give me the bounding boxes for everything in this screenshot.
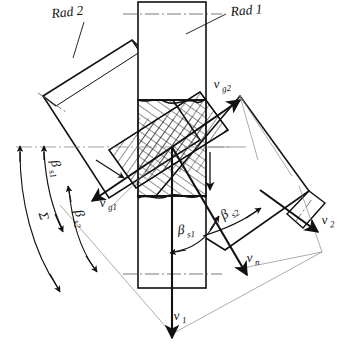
diagram-canvas: Rad 2 Rad 1 v g2 v g1 v n v 1 v 2 xyxy=(0,0,350,352)
label-vg2-sub: g2 xyxy=(222,83,232,94)
label-vg1-sub: g1 xyxy=(108,202,118,213)
label-beta-s1-centre-sub: s1 xyxy=(187,229,196,240)
label-rad1: Rad 1 xyxy=(229,1,263,19)
label-v1-sub: 1 xyxy=(182,315,187,325)
technical-diagram: Rad 2 Rad 1 v g2 v g1 v n v 1 v 2 xyxy=(0,0,350,352)
label-beta-s1-centre-base: β xyxy=(176,222,185,238)
